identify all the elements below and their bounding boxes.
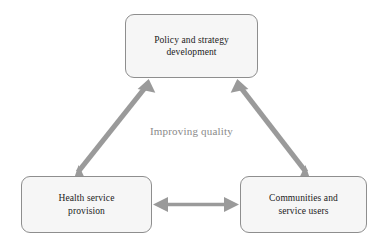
node-policy-label: Policy and strategy development (148, 34, 235, 58)
center-label-improving-quality: Improving quality (0, 125, 383, 137)
node-communities-and-service-users[interactable]: Communities and service users (240, 176, 367, 233)
node-health-label: Health service provision (53, 192, 121, 216)
connector-health-communities (153, 197, 239, 212)
node-policy-and-strategy-development[interactable]: Policy and strategy development (125, 14, 258, 78)
diagram-canvas: Policy and strategy development Health s… (0, 0, 383, 250)
node-communities-label: Communities and service users (263, 192, 344, 216)
node-health-service-provision[interactable]: Health service provision (21, 176, 152, 233)
